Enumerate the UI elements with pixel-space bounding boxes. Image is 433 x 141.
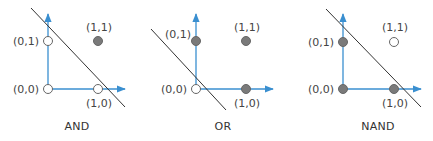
point-1-0 — [94, 85, 103, 94]
panel-title: OR — [215, 120, 232, 133]
panel-title: AND — [64, 120, 89, 133]
label-0-1: (0,1) — [308, 36, 334, 49]
label-0-0: (0,0) — [161, 83, 187, 96]
label-0-1: (0,1) — [13, 35, 39, 48]
point-1-1 — [94, 37, 103, 46]
panel-or: (0,0) (0,1) (1,0) (1,1) OR — [151, 14, 273, 133]
label-0-1: (0,1) — [165, 28, 191, 41]
point-0-0 — [339, 85, 348, 94]
panel-title: NAND — [361, 120, 395, 133]
point-1-1 — [242, 37, 251, 46]
label-0-0: (0,0) — [308, 83, 334, 96]
point-0-0 — [44, 85, 53, 94]
point-0-0 — [192, 85, 201, 94]
point-0-1 — [192, 37, 201, 46]
logic-gates-diagram: (0,0) (0,1) (1,0) (1,1) AND (0,0) (0,1) … — [0, 0, 433, 141]
point-1-0 — [390, 85, 399, 94]
label-1-1: (1,1) — [382, 21, 408, 34]
decision-boundary — [151, 29, 226, 110]
label-1-0: (1,0) — [234, 97, 260, 110]
label-0-0: (0,0) — [13, 83, 39, 96]
label-1-1: (1,1) — [86, 21, 112, 34]
panel-nand: (0,0) (0,1) (1,0) (1,1) NAND — [308, 9, 421, 133]
point-1-1 — [390, 38, 399, 47]
point-0-1 — [44, 37, 53, 46]
label-1-0: (1,0) — [382, 97, 408, 110]
label-1-1: (1,1) — [234, 21, 260, 34]
label-1-0: (1,0) — [86, 97, 112, 110]
point-1-0 — [242, 85, 251, 94]
point-0-1 — [339, 38, 348, 47]
panel-and: (0,0) (0,1) (1,0) (1,1) AND — [13, 8, 125, 133]
